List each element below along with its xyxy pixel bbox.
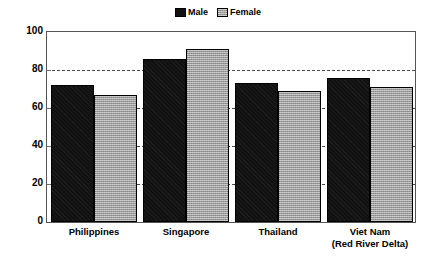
- chart-legend: Male Female: [0, 8, 436, 17]
- bar-singapore-male[interactable]: [143, 59, 186, 222]
- y-tick-label-40: 40: [3, 140, 43, 150]
- x-cat-label-viet-nam: Viet Nam (Red River Delta): [322, 226, 418, 250]
- bar-group-thailand: [235, 32, 323, 222]
- bar-group-viet-nam: [327, 32, 415, 222]
- y-tick-label-0: 0: [3, 216, 43, 226]
- x-cat-label-thailand-line1: Thailand: [258, 226, 297, 237]
- legend-item-male: Male: [175, 8, 208, 17]
- bar-thailand-female[interactable]: [278, 91, 321, 222]
- male-swatch-icon: [175, 8, 186, 17]
- legend-item-female: Female: [217, 8, 261, 17]
- bar-philippines-male[interactable]: [51, 85, 94, 222]
- y-axis: 100 80 60 40 20 0: [0, 31, 43, 222]
- x-axis: Philippines Singapore Thailand Viet Nam …: [46, 226, 414, 266]
- legend-label-female: Female: [230, 8, 261, 17]
- legend-label-male: Male: [188, 8, 208, 17]
- y-tick-label-60: 60: [3, 102, 43, 112]
- x-cat-label-philippines: Philippines: [50, 226, 138, 238]
- bar-chart: Male Female 100 80 60 40 20 0: [0, 0, 436, 266]
- y-tick-label-80: 80: [3, 64, 43, 74]
- bar-philippines-female[interactable]: [94, 95, 137, 222]
- x-cat-label-viet-nam-line2: (Red River Delta): [322, 238, 418, 250]
- y-tick-label-20: 20: [3, 178, 43, 188]
- plot-inner: [47, 32, 415, 222]
- x-cat-label-viet-nam-line1: Viet Nam: [350, 226, 390, 237]
- x-cat-label-philippines-line1: Philippines: [69, 226, 120, 237]
- y-tick-label-100: 100: [3, 26, 43, 36]
- plot-area: [46, 31, 416, 223]
- bar-viet-nam-male[interactable]: [327, 78, 370, 222]
- bar-viet-nam-female[interactable]: [370, 87, 413, 222]
- bar-group-philippines: [51, 32, 139, 222]
- female-swatch-icon: [217, 8, 228, 17]
- bar-group-singapore: [143, 32, 231, 222]
- x-cat-label-singapore-line1: Singapore: [163, 226, 209, 237]
- bar-singapore-female[interactable]: [186, 49, 229, 222]
- x-cat-label-singapore: Singapore: [142, 226, 230, 238]
- x-cat-label-thailand: Thailand: [234, 226, 322, 238]
- bar-thailand-male[interactable]: [235, 83, 278, 222]
